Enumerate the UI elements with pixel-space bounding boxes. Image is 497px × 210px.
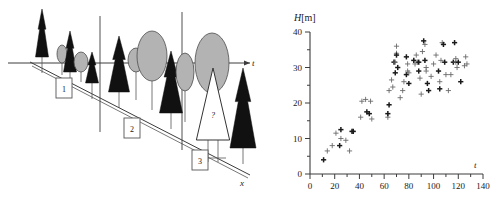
marker-box-label-2: 2: [130, 125, 134, 134]
scatter-point: [420, 49, 425, 54]
unknown-tree-label: ?: [211, 111, 215, 120]
scatter-point: [406, 81, 411, 86]
scatter-point: [343, 138, 348, 143]
left-time-axis-arrow: [244, 61, 250, 66]
scatter-point: [389, 77, 394, 82]
scatter-point: [425, 81, 430, 86]
scatter-point: [429, 74, 434, 79]
x-axis-tick-label: 0: [308, 181, 313, 191]
x-axis-tick-label: 100: [427, 181, 441, 191]
scatter-point: [433, 52, 438, 57]
scatter-point: [385, 111, 390, 116]
scatter-point: [437, 86, 442, 91]
y-axis-tick-label: 40: [293, 27, 303, 37]
scatter-point: [333, 131, 338, 136]
scatter-point: [463, 54, 468, 59]
scatter-point: [330, 143, 335, 148]
scatter-point: [325, 148, 330, 153]
x-axis-tick-label: 60: [380, 181, 390, 191]
scatter-point: [414, 52, 419, 57]
scatter-point: [390, 84, 395, 89]
scatter-point: [448, 72, 453, 77]
scatter-point: [424, 68, 429, 73]
scatter-point: [395, 65, 400, 70]
left-depth-axis-label: x: [239, 178, 244, 188]
scatter-points-group: [321, 38, 470, 162]
scatter-point: [405, 61, 410, 66]
scatter-point: [337, 143, 342, 148]
deciduous-tree: [74, 52, 88, 72]
y-axis-label-unit: [m]: [301, 12, 315, 23]
conifer-tree: [86, 52, 99, 83]
marker-box-label-1: 1: [62, 85, 66, 94]
y-axis-tick-label: 20: [293, 98, 303, 108]
scatter-point: [347, 148, 352, 153]
scatter-point: [394, 44, 399, 49]
scatter-point: [422, 58, 427, 63]
y-axis-tick-label: 0: [298, 169, 303, 179]
scatter-point: [452, 40, 457, 45]
scatter-point: [338, 127, 343, 132]
scatter-point: [437, 79, 442, 84]
scatter-point: [456, 60, 461, 65]
scatter-point: [386, 88, 391, 93]
x-axis-tick-label: 120: [452, 181, 466, 191]
scatter-point: [421, 38, 426, 43]
scatter-point: [368, 99, 373, 104]
y-axis-tick-label: 30: [293, 63, 303, 73]
left-time-axis-label: t: [252, 58, 255, 68]
scatter-point: [443, 72, 448, 77]
marker-box-label-3: 3: [198, 157, 202, 166]
scatter-point: [338, 136, 343, 141]
scatter-point: [358, 115, 363, 120]
conifer-tree: [36, 9, 49, 57]
scatter-point: [401, 79, 406, 84]
scatter-point: [398, 95, 403, 100]
scatter-point: [386, 102, 391, 107]
deciduous-tree: [176, 53, 194, 91]
scatter-point: [404, 54, 409, 59]
x-axis-label: t: [474, 160, 477, 170]
scatter-plot-panel: 010203040020406080100120140H[m]t: [293, 12, 490, 191]
scatter-point: [369, 116, 374, 121]
y-axis-label: H[m]: [293, 12, 316, 23]
scatter-point: [431, 61, 436, 66]
scatter-point: [393, 70, 398, 75]
x-axis-tick-label: 20: [330, 181, 340, 191]
figure-svg: tx?123 010203040020406080100120140H[m]t: [0, 0, 497, 210]
x-axis-tick-label: 80: [404, 181, 414, 191]
scatter-point: [419, 92, 424, 97]
scatter-point: [417, 76, 422, 81]
conifer-tree: [109, 36, 130, 92]
scatter-point: [400, 88, 405, 93]
scatter-point: [454, 65, 459, 70]
scatter-point: [458, 79, 463, 84]
scatter-point: [416, 68, 421, 73]
figure-container: tx?123 010203040020406080100120140H[m]t: [0, 0, 497, 210]
scatter-point: [426, 88, 431, 93]
conifer-tree: [230, 68, 256, 148]
scatter-point: [436, 68, 441, 73]
chronosequence-diagram-panel: tx?123: [8, 9, 256, 188]
scatter-point: [321, 157, 326, 162]
scatter-point: [446, 88, 451, 93]
deciduous-tree: [137, 31, 167, 81]
x-axis-tick-label: 40: [355, 181, 365, 191]
x-axis-tick-label: 140: [476, 181, 490, 191]
y-axis-tick-label: 10: [293, 134, 303, 144]
